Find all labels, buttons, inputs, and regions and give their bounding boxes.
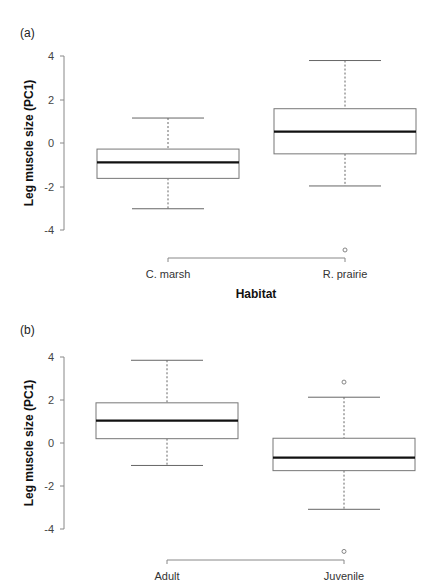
panel-a-x-axis: C. marsh R. prairie Habitat <box>146 258 368 301</box>
panel-a-ytick-2: 2 <box>48 94 54 106</box>
panel-a-x-axis-title: Habitat <box>236 287 277 301</box>
panel-b-ytick-neg4: -4 <box>44 523 54 535</box>
panel-a-ytick-neg2: -2 <box>44 181 54 193</box>
panel-a-y-axis: 4 2 0 -2 -4 <box>44 50 64 236</box>
outlier-point <box>343 248 347 252</box>
panel-a-y-axis-title: Leg muscle size (PC1) <box>22 80 36 207</box>
panel-a-ytick-4: 4 <box>48 50 54 62</box>
boxplot-r-prairie <box>274 61 416 252</box>
outlier-point <box>342 549 346 553</box>
panel-b-ytick-4: 4 <box>48 351 54 363</box>
panel-b-x-axis: Adult Juvenile <box>154 560 364 582</box>
panel-b-xtick-juvenile: Juvenile <box>324 570 364 582</box>
panel-a-boxes <box>97 61 416 252</box>
panel-b-xtick-adult: Adult <box>154 570 179 582</box>
boxplot-c-marsh <box>97 118 239 209</box>
panel-a-ytick-0: 0 <box>48 137 54 149</box>
panel-b-y-axis: 4 2 0 -2 -4 <box>44 351 64 535</box>
panel-b-y-axis-title: Leg muscle size (PC1) <box>22 380 36 507</box>
panel-a-ytick-neg4: -4 <box>44 224 54 236</box>
panel-a: (a) Leg muscle size (PC1) 4 2 0 -2 -4 C.… <box>20 26 416 301</box>
panel-b-label: (b) <box>20 323 35 337</box>
iqr-box <box>97 149 239 178</box>
panel-b: (b) Leg muscle size (PC1) 4 2 0 -2 -4 Ad… <box>20 323 415 582</box>
figure: (a) Leg muscle size (PC1) 4 2 0 -2 -4 C.… <box>0 0 433 584</box>
panel-b-ytick-neg2: -2 <box>44 480 54 492</box>
panel-b-ytick-0: 0 <box>48 437 54 449</box>
panel-a-xtick-r-prairie: R. prairie <box>323 268 368 280</box>
boxplot-adult <box>96 360 238 465</box>
panel-b-ytick-2: 2 <box>48 394 54 406</box>
iqr-box <box>273 438 415 470</box>
outlier-point <box>342 380 346 384</box>
panel-a-label: (a) <box>20 26 35 40</box>
boxplot-juvenile <box>273 380 415 553</box>
panel-a-xtick-c-marsh: C. marsh <box>146 268 191 280</box>
panel-b-boxes <box>96 360 415 553</box>
